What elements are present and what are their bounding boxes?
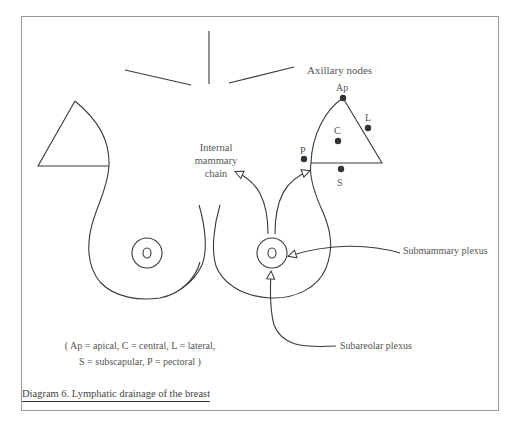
node-apical [340,95,346,101]
left-clavicle-line [125,70,191,85]
internal-mammary-line1: Internal [186,141,246,154]
arrow-to-internal-mammary [236,172,268,234]
node-legend: ( Ap = apical, C = central, L = lateral,… [50,338,230,370]
subareolar-plexus-label: Subareolar plexus [340,341,412,351]
internal-mammary-line3: chain [186,167,246,180]
left-nipple [143,248,151,258]
node-label-pectoral: P [300,146,306,156]
node-pectoral [301,156,307,162]
node-label-apical: Ap [336,83,348,93]
node-label-subscapular: S [337,178,343,188]
internal-mammary-chain-label: Internal mammary chain [186,141,246,180]
node-label-lateral: L [365,113,371,123]
left-areola [132,238,162,268]
right-inner-curve [213,163,330,298]
node-lateral [365,125,371,131]
right-areola [257,238,287,268]
diagram-caption: Diagram 6. Lymphatic drainage of the bre… [22,388,210,402]
node-central [335,138,341,144]
arrow-subareolar [270,272,336,347]
left-breast-outline [75,101,200,299]
right-clavicle-line [229,67,294,83]
left-axillary-triangle [38,101,109,166]
node-subscapular [338,166,344,172]
axillary-nodes-label: Axillary nodes [307,65,372,76]
legend-line-1: ( Ap = apical, C = central, L = lateral, [50,338,230,354]
legend-line-2: S = subscapular, P = pectoral ) [50,354,230,370]
arrow-submammary [289,246,400,256]
internal-mammary-line2: mammary [186,154,246,167]
right-nipple [268,248,276,258]
submammary-plexus-label: Submammary plexus [403,246,488,256]
node-label-central: C [334,126,341,136]
arrow-to-pectoral [275,171,309,234]
right-axillary-triangle [311,98,382,163]
